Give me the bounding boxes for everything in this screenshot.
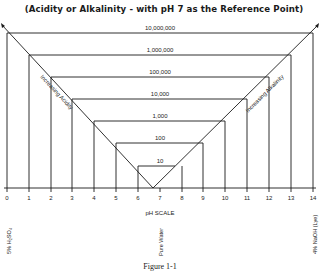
ph-tick: 9 — [201, 195, 205, 201]
level-label: 10 — [157, 158, 164, 164]
ph-tick: 5 — [114, 195, 118, 201]
ph-tick: 10 — [222, 195, 229, 201]
ph-tick: 14 — [310, 195, 317, 201]
alkalinity-diagonal — [153, 25, 318, 188]
increasing-acidity-label: Increasing Acidity — [39, 74, 74, 111]
level-label: 1,000 — [152, 113, 168, 119]
level-label: 100,000 — [149, 69, 171, 75]
ph-tick: 12 — [266, 195, 273, 201]
ph-tick: 11 — [244, 195, 251, 201]
neutral-reference-label: Pure Water — [158, 228, 164, 256]
ph-tick: 7 — [158, 195, 162, 201]
ph-tick: 4 — [92, 195, 96, 201]
acid-reference-label: 5% H₂SO₄ — [6, 227, 12, 254]
acidity-diagonal — [2, 25, 153, 188]
ph-scale-label: pH SCALE — [145, 210, 174, 216]
level-label: 10,000 — [151, 91, 170, 97]
base-reference-label: 4% NaOH (Lye) — [312, 215, 318, 254]
ph-tick: 2 — [49, 195, 53, 201]
ph-tick: 1 — [27, 195, 31, 201]
level-label: 1,000,000 — [147, 47, 174, 53]
ph-tick: 3 — [70, 195, 74, 201]
ph-tick: 0 — [5, 195, 9, 201]
ph-tick: 8 — [180, 195, 184, 201]
level-label: 10,000,000 — [145, 25, 176, 31]
ph-scale-diagram: 10,000,000 1,000,000 100,000 10,000 1,00… — [0, 0, 328, 272]
figure-caption: Figure 1-1 — [143, 262, 177, 271]
increasing-alkalinity-label: Increasing Alkalinity — [244, 73, 284, 113]
ph-tick: 13 — [288, 195, 295, 201]
ph-tick: 6 — [136, 195, 140, 201]
level-label: 100 — [155, 135, 166, 141]
